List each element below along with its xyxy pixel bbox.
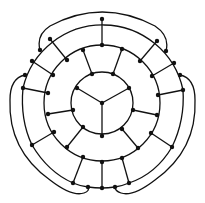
- graph-node: [30, 59, 34, 63]
- edge: [140, 41, 157, 61]
- graph-node: [136, 146, 140, 150]
- graph-node: [138, 59, 142, 63]
- edge: [32, 61, 53, 75]
- graph-node: [131, 108, 135, 112]
- graph-node: [65, 58, 69, 62]
- graph-node: [46, 112, 50, 116]
- graph-node: [23, 73, 27, 77]
- graph-node: [120, 47, 124, 51]
- outer-ring-right: [102, 90, 183, 188]
- edge: [67, 127, 83, 147]
- graph-node: [172, 61, 176, 65]
- graph-node: [100, 186, 104, 190]
- graph-node: [127, 86, 131, 90]
- edge: [83, 50, 92, 74]
- graph-node: [113, 185, 117, 189]
- edge: [151, 133, 172, 147]
- edge: [77, 88, 102, 103]
- graph-node: [52, 130, 56, 134]
- graph-node: [150, 74, 154, 78]
- edge: [48, 110, 73, 114]
- graph-node: [46, 91, 50, 95]
- outer-ring-top: [23, 25, 183, 90]
- graph-node: [120, 127, 124, 131]
- graph-node: [164, 49, 168, 53]
- edge: [32, 132, 54, 145]
- graph-node: [155, 39, 159, 43]
- edge: [133, 110, 157, 115]
- graph-node: [155, 113, 159, 117]
- edge: [122, 129, 138, 148]
- graph-node: [38, 48, 42, 52]
- graph-node: [81, 125, 85, 129]
- graph-node: [71, 108, 75, 112]
- graph-node: [100, 160, 104, 164]
- graph-node: [178, 73, 182, 77]
- graph-node: [100, 43, 104, 47]
- graph-node: [100, 101, 104, 105]
- graph-node: [149, 131, 153, 135]
- graph-node: [100, 134, 104, 138]
- graph-diagram: [0, 0, 205, 203]
- graph-node: [81, 48, 85, 52]
- graph-node: [181, 88, 185, 92]
- graph-node: [127, 181, 131, 185]
- graph-node: [65, 145, 69, 149]
- graph-node: [170, 145, 174, 149]
- graph-node: [71, 181, 75, 185]
- graph-node: [100, 17, 104, 21]
- edge: [122, 158, 129, 183]
- graph-node: [120, 156, 124, 160]
- edge: [152, 63, 174, 76]
- outer-ring-left: [22, 88, 102, 188]
- graph-node: [111, 72, 115, 76]
- graph-node: [30, 143, 34, 147]
- edge: [73, 157, 83, 183]
- edge: [158, 90, 183, 95]
- graph-node: [75, 86, 79, 90]
- edge: [50, 39, 67, 60]
- edge: [113, 49, 122, 74]
- edge: [102, 88, 129, 103]
- graph-node: [156, 93, 160, 97]
- graph-node: [86, 185, 90, 189]
- graph-node: [48, 37, 52, 41]
- graph-node: [21, 86, 25, 90]
- graph-node: [90, 72, 94, 76]
- edge: [23, 88, 48, 93]
- graph-node: [51, 73, 55, 77]
- graph-node: [81, 155, 85, 159]
